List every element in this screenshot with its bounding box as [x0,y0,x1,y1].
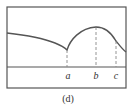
marker-label-b: b [94,71,99,81]
curve [7,27,126,52]
marker-label-a: a [66,71,71,81]
plot-svg [0,0,130,107]
figure-d: a b c (d) [0,0,130,107]
marker-label-c: c [114,71,118,81]
figure-caption: (d) [62,94,74,104]
